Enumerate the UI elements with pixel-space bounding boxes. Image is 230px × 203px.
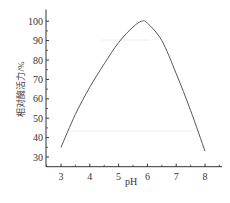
x-tick-label: 5 <box>116 171 121 182</box>
y-tick-label: 30 <box>33 152 43 163</box>
y-tick-label: 90 <box>33 35 43 46</box>
y-tick-label: 60 <box>33 93 43 104</box>
y-axis-label: 相对酶活力/% <box>15 61 26 117</box>
x-axis-label: pH <box>125 176 137 187</box>
y-tick-label: 50 <box>33 113 43 124</box>
x-tick-label: 6 <box>145 171 150 182</box>
y-tick-label: 40 <box>33 132 43 143</box>
x-tick-label: 8 <box>203 171 208 182</box>
x-tick-label: 4 <box>87 171 92 182</box>
y-axis: 30405060708090100 <box>28 10 49 167</box>
line-chart: 30405060708090100 345678 pH 相对酶活力/% <box>0 0 230 203</box>
x-tick-label: 7 <box>174 171 179 182</box>
y-tick-label: 100 <box>28 16 43 27</box>
y-tick-label: 80 <box>33 55 43 66</box>
y-tick-label: 70 <box>33 74 43 85</box>
x-tick-label: 3 <box>59 171 64 182</box>
